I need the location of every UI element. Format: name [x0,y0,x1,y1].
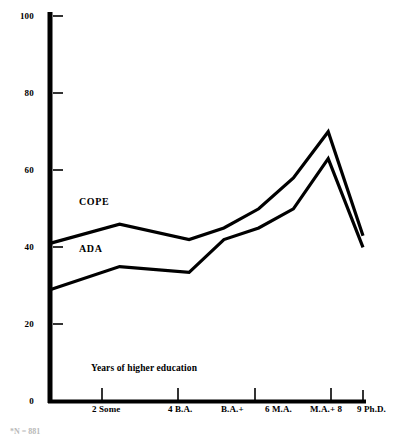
x-tick-label-ba-plus: B.A.+ [221,404,244,414]
x-tick-label-ma-plus-8: M.A.+ 8 [310,404,342,414]
y-tick-marks [53,16,63,324]
x-tick-label-9-phd: 9 Ph.D. [357,404,386,414]
y-tick-label-40: 40 [8,242,34,252]
series-label-cope: COPE [79,196,109,207]
series-label-ada: ADA [79,243,102,254]
footnote: *N = 881 [10,427,40,434]
y-tick-label-0: 0 [8,396,34,406]
x-tick-label-4-ba: 4 B.A. [168,404,192,414]
x-axis-caption: Years of higher education [91,363,197,373]
x-tick-label-2-some: 2 Some [92,404,120,414]
x-tick-label-6-ma: 6 M.A. [265,404,292,414]
series-line-ada [50,159,363,290]
x-tick-marks [102,388,363,400]
y-tick-label-20: 20 [8,319,34,329]
chart-container: 100 80 60 40 20 0 2 Some 4 B.A. B.A.+ 6 … [0,0,394,434]
series-line-cope [50,132,363,244]
y-tick-label-60: 60 [8,165,34,175]
y-tick-label-80: 80 [8,88,34,98]
y-tick-label-100: 100 [8,11,34,21]
